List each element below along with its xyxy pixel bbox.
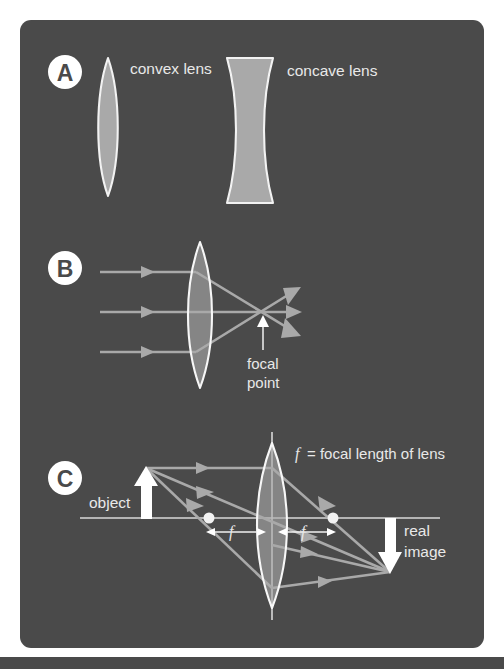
parallel-ray-incident-arrowhead bbox=[196, 462, 210, 474]
focal-ray-refracted bbox=[272, 572, 390, 588]
concave-lens-shape bbox=[227, 58, 273, 203]
convex-lens-shape bbox=[98, 58, 118, 196]
panel-c-badge-letter: C bbox=[57, 466, 74, 492]
lens-diagram-svg: A convex lens concave lens B bbox=[20, 20, 484, 648]
concave-lens-label: concave lens bbox=[287, 62, 378, 79]
focal-ray-incident-arrowhead bbox=[186, 498, 204, 512]
panel-a-badge-letter: A bbox=[57, 60, 74, 86]
panel-b-incoming-rays bbox=[100, 266, 196, 358]
refracted-ray-top-arrowhead bbox=[281, 318, 301, 338]
incoming-ray-top-arrowhead bbox=[141, 266, 155, 278]
figure-card: A convex lens concave lens B bbox=[20, 20, 484, 648]
focal-point-label-line2: point bbox=[247, 374, 280, 391]
object-arrow-shaft bbox=[141, 481, 152, 519]
auxiliary-ray-line bbox=[272, 545, 390, 572]
focal-point-dot-left bbox=[204, 513, 215, 524]
object-arrow bbox=[134, 466, 158, 519]
image-arrow-shaft bbox=[385, 518, 396, 554]
panel-b: B bbox=[48, 242, 302, 391]
panel-b-convex-lens bbox=[188, 242, 212, 388]
refracted-ray-middle-arrowhead bbox=[286, 305, 302, 319]
object-label: object bbox=[89, 494, 131, 511]
focal-point-pointer bbox=[257, 315, 269, 350]
figure-stage: A convex lens concave lens B bbox=[0, 0, 504, 669]
refracted-ray-bottom-arrowhead bbox=[283, 287, 301, 305]
focal-length-legend-symbol: f bbox=[295, 445, 302, 463]
real-image-label-line1: real bbox=[404, 522, 430, 539]
panel-c: C f = focal length of lens bbox=[48, 432, 446, 620]
focal-point-dot-right bbox=[328, 513, 339, 524]
focal-dim-right-arrow-end bbox=[327, 528, 336, 536]
panel-a: A convex lens concave lens bbox=[48, 55, 378, 203]
incoming-ray-bottom-arrowhead bbox=[141, 346, 155, 358]
incoming-ray-middle-arrowhead bbox=[141, 306, 155, 318]
focal-point-label-line1: focal bbox=[247, 355, 279, 372]
focal-ray-refracted-arrowhead bbox=[318, 576, 332, 588]
auxiliary-ray bbox=[272, 545, 390, 572]
panel-b-badge-letter: B bbox=[57, 256, 74, 282]
focal-length-legend-text: = focal length of lens bbox=[307, 445, 445, 462]
convex-lens-label: convex lens bbox=[130, 60, 212, 77]
focal-ray-incident bbox=[146, 468, 272, 588]
parallel-ray-refracted-arrowhead bbox=[318, 496, 336, 512]
bottom-bar bbox=[0, 657, 504, 669]
real-image-label-line2: image bbox=[404, 543, 446, 560]
